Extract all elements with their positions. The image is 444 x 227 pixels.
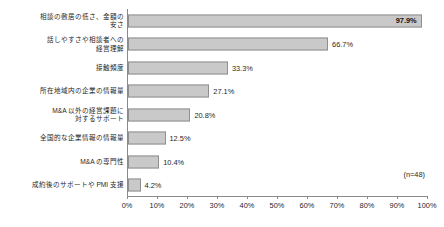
bar <box>128 61 228 74</box>
x-axis-tick-label: 30% <box>210 201 225 210</box>
bar <box>128 179 141 192</box>
bar-chart: 相談の敷居の低さ、金額の 安さ97.9%話しやすさや相談者への 経営理解66.7… <box>0 0 444 227</box>
bar-wrapper: 4.2% <box>128 179 161 192</box>
x-axis-tick-label: 100% <box>418 201 437 210</box>
bar-value-label: 12.5% <box>170 134 191 143</box>
x-axis-tick-mark <box>217 196 218 199</box>
bar-value-label: 33.3% <box>232 63 253 72</box>
x-axis-tick-label: 0% <box>122 201 133 210</box>
x-axis-tick-label: 70% <box>330 201 345 210</box>
bar-row: M&A の専門性10.4% <box>0 150 444 174</box>
bar: 97.9% <box>128 14 422 27</box>
bar <box>128 108 190 121</box>
bar-value-label: 66.7% <box>332 40 353 49</box>
x-axis-tick-label: 60% <box>300 201 315 210</box>
bar-value-label: 4.2% <box>145 181 162 190</box>
bar-wrapper: 33.3% <box>128 61 253 74</box>
bar-row: M&A 以外の経営課題に 対するサポート20.8% <box>0 103 444 127</box>
category-label: M&A 以外の経営課題に 対するサポート <box>6 106 124 123</box>
category-label: 話しやすさや相談者への 経営理解 <box>6 36 124 53</box>
bar-value-label: 27.1% <box>213 87 234 96</box>
category-label: 相談の敷居の低さ、金額の 安さ <box>6 12 124 29</box>
x-axis-tick-mark <box>157 196 158 199</box>
bar-row: 話しやすさや相談者への 経営理解66.7% <box>0 33 444 57</box>
x-axis-tick-label: 20% <box>180 201 195 210</box>
bar-row: 成約後のサポートや PMI 支援4.2% <box>0 174 444 198</box>
x-axis-tick-mark <box>367 196 368 199</box>
x-axis-tick-mark <box>307 196 308 199</box>
sample-size-note: (n=48) <box>403 170 425 179</box>
x-axis-tick-label: 40% <box>240 201 255 210</box>
bar-wrapper: 10.4% <box>128 155 184 168</box>
x-axis-tick-mark <box>427 196 428 199</box>
category-label: M&A の専門性 <box>6 158 124 166</box>
x-axis-tick-mark <box>247 196 248 199</box>
category-label: 所在地域内の企業の情報量 <box>6 87 124 95</box>
x-axis-tick-mark <box>337 196 338 199</box>
x-axis-tick-mark <box>397 196 398 199</box>
bar <box>128 132 166 145</box>
bar-row: 相談の敷居の低さ、金額の 安さ97.9% <box>0 9 444 33</box>
x-axis-tick-mark <box>127 196 128 199</box>
category-label: 全国的な企業情報の情報量 <box>6 134 124 142</box>
x-axis-tick-label: 50% <box>270 201 285 210</box>
bar <box>128 85 209 98</box>
category-label: 成約後のサポートや PMI 支援 <box>6 181 124 189</box>
bar-wrapper: 66.7% <box>128 38 353 51</box>
bar <box>128 155 159 168</box>
bar-row: 所在地域内の企業の情報量27.1% <box>0 80 444 104</box>
category-label: 接触頻度 <box>6 64 124 72</box>
bar-wrapper: 20.8% <box>128 108 215 121</box>
bar-value-label: 20.8% <box>194 110 215 119</box>
bar-wrapper: 12.5% <box>128 132 190 145</box>
bar-row: 接触頻度33.3% <box>0 56 444 80</box>
bar-wrapper: 27.1% <box>128 85 234 98</box>
bar-wrapper: 97.9% <box>128 14 422 27</box>
bar-value-label: 97.9% <box>396 16 417 25</box>
x-axis-tick-mark <box>187 196 188 199</box>
x-axis-tick-label: 90% <box>390 201 405 210</box>
bar-row: 全国的な企業情報の情報量12.5% <box>0 127 444 151</box>
x-axis-tick-label: 10% <box>150 201 165 210</box>
bar <box>128 38 328 51</box>
x-axis-tick-label: 80% <box>360 201 375 210</box>
bar-value-label: 10.4% <box>163 157 184 166</box>
x-axis-tick-mark <box>277 196 278 199</box>
